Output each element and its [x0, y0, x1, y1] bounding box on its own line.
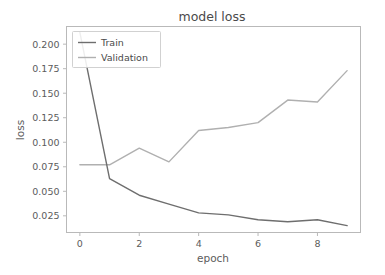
- x-tick-label: 8: [314, 238, 320, 249]
- model-loss-line-chart: model loss 0.0250.0500.0750.1000.1250.15…: [0, 0, 385, 275]
- legend-label-validation: Validation: [101, 52, 148, 63]
- y-tick-label: 0.075: [32, 161, 59, 172]
- x-axis-title: epoch: [197, 252, 229, 264]
- y-tick-label: 0.200: [32, 39, 59, 50]
- x-tick-label: 6: [255, 238, 261, 249]
- y-tick-label: 0.150: [32, 88, 59, 99]
- legend-label-train: Train: [100, 37, 124, 48]
- y-tick-label: 0.050: [32, 186, 59, 197]
- y-tick-label: 0.100: [32, 137, 59, 148]
- y-tick-label: 0.175: [32, 63, 59, 74]
- chart-title: model loss: [178, 9, 245, 24]
- x-tick-label: 2: [136, 238, 142, 249]
- figure-canvas: model loss 0.0250.0500.0750.1000.1250.15…: [0, 0, 385, 275]
- x-tick-label: 4: [196, 238, 202, 249]
- chart-legend[interactable]: Train Validation: [73, 32, 161, 68]
- y-tick-label: 0.125: [32, 112, 59, 123]
- y-axis-title: loss: [14, 120, 26, 140]
- y-tick-label: 0.025: [32, 210, 59, 221]
- x-tick-label: 0: [77, 238, 83, 249]
